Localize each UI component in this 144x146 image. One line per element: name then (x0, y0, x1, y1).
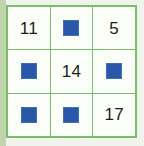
blue-square-icon (106, 63, 122, 79)
blue-square-icon (63, 107, 79, 123)
grid-cell-r1c3[interactable]: 5 (93, 7, 135, 49)
blue-square-icon (21, 107, 37, 123)
grid-cell-r1c1[interactable]: 11 (8, 7, 50, 49)
cell-number-r3c3: 17 (105, 106, 124, 123)
grid-cell-r1c2[interactable] (51, 7, 93, 49)
grid-container: 11 5 14 17 (6, 5, 137, 138)
grid-cell-r3c3[interactable]: 17 (93, 94, 135, 136)
number-square-grid: 11 5 14 17 (8, 7, 135, 136)
grid-cell-r3c2[interactable] (51, 94, 93, 136)
grid-cell-r2c3[interactable] (93, 50, 135, 92)
page-canvas: 11 5 14 17 (0, 0, 144, 146)
blue-square-icon (21, 63, 37, 79)
blue-square-icon (63, 20, 79, 36)
cell-number-r1c3: 5 (109, 20, 119, 37)
cell-number-r2c2: 14 (62, 63, 81, 80)
cell-number-r1c1: 11 (20, 20, 38, 37)
grid-cell-r2c1[interactable] (8, 50, 50, 92)
grid-cell-r2c2[interactable]: 14 (51, 50, 93, 92)
grid-cell-r3c1[interactable] (8, 94, 50, 136)
